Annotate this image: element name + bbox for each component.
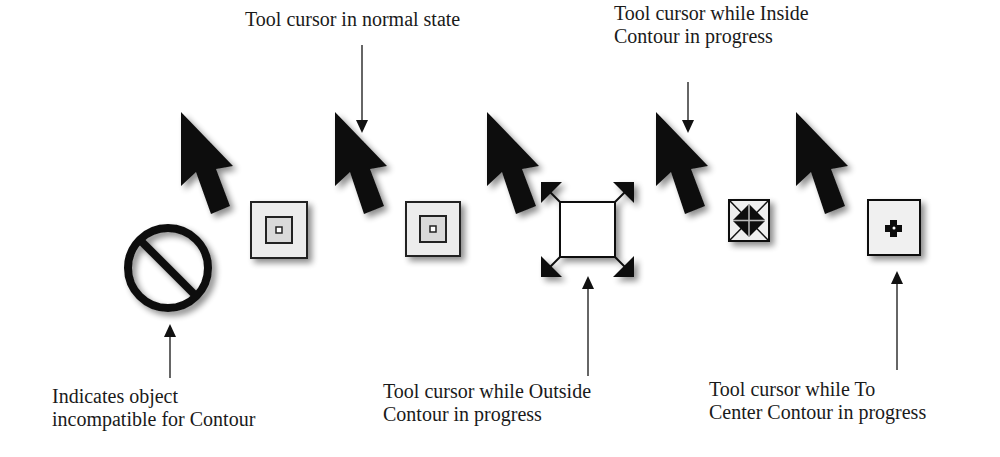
label-line: Center Contour in progress [709, 401, 926, 424]
label-incompatible: Indicates object incompatible for Contou… [52, 385, 255, 431]
label-line: Tool cursor while To [709, 378, 926, 401]
pointer-arrow-down [356, 45, 368, 133]
label-normal-state: Tool cursor in normal state [245, 8, 460, 31]
label-line: incompatible for Contour [52, 408, 255, 431]
label-line: Tool cursor while Outside [383, 380, 591, 403]
label-outside-contour: Tool cursor while Outside Contour in pro… [383, 380, 591, 426]
pointer-arrow-up [891, 271, 903, 370]
label-center-contour: Tool cursor while To Center Contour in p… [709, 378, 926, 424]
pointer-arrow-up [582, 276, 594, 376]
label-line: Indicates object [52, 385, 255, 408]
nested-squares-icon [251, 202, 307, 258]
expand-square-icon [541, 182, 634, 277]
cursor-arrow-icon [181, 112, 233, 214]
cursor-arrow-icon [656, 112, 708, 214]
contract-square-icon [729, 200, 769, 241]
label-inside-contour: Tool cursor while Inside Contour in prog… [614, 2, 809, 48]
cursor-arrow-icon [796, 112, 848, 214]
prohibited-circle-icon [128, 228, 208, 308]
nested-squares-icon [406, 202, 460, 256]
center-cross-icon [868, 200, 920, 255]
label-line: Tool cursor while Inside [614, 2, 809, 25]
pointer-arrow-down [682, 82, 694, 133]
label-line: Contour in progress [383, 403, 591, 426]
cursor-arrow-icon [487, 112, 539, 214]
pointer-arrow-up [164, 324, 176, 378]
label-line: Contour in progress [614, 25, 809, 48]
label-line: Tool cursor in normal state [245, 8, 460, 31]
